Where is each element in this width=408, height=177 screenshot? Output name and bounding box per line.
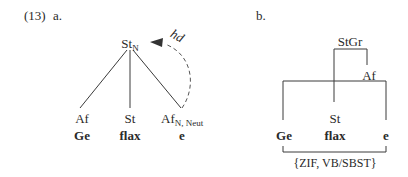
leaf-form: e — [179, 129, 185, 142]
tree-lines — [0, 0, 408, 177]
leaf-category-sub: N, Neut — [175, 118, 204, 128]
leaf-category-base: Af — [161, 111, 175, 126]
tree-a-branches — [80, 50, 181, 108]
root-node-b: StGr — [338, 35, 363, 48]
root-sub: N — [132, 43, 139, 53]
bracket-label: {ZIF, VB/SBST} — [293, 157, 376, 170]
root-base: St — [121, 36, 132, 51]
example-number: (13) — [24, 9, 46, 22]
leaf-form: Ge — [74, 129, 90, 142]
panel-a-label: a. — [53, 9, 62, 22]
leaf-form: flax — [120, 129, 141, 142]
panel-b-label: b. — [256, 9, 266, 22]
leaf-category: AfN, Neut — [161, 112, 203, 127]
leaf-category: St — [125, 112, 136, 125]
form-e: e — [383, 129, 389, 142]
form-ge: Ge — [276, 129, 292, 142]
st-node: St — [330, 112, 341, 125]
af-node: Af — [362, 69, 376, 82]
leaf-category: Af — [75, 112, 89, 125]
form-flax: flax — [325, 129, 346, 142]
head-arrow — [150, 38, 190, 108]
root-node-a: StN — [121, 37, 138, 52]
